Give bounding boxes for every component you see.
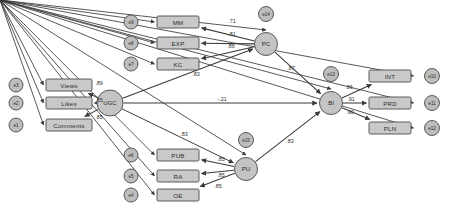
coefficient-UGC-views: .89 (95, 80, 103, 86)
coefficient-UGC-comments: .85 (95, 114, 103, 120)
observed-variable-OE: OE (157, 189, 199, 201)
observed-variable-INT: INT (369, 70, 411, 82)
observed-variable-likes: Likes (46, 97, 92, 109)
error-term-e6: e6 (124, 148, 138, 162)
latent-variable-UGC: UGC (97, 90, 123, 116)
coefficient-UGC-PU: .83 (180, 131, 188, 137)
error-term-e8: e8 (124, 36, 138, 50)
latent-label-PU: PU (242, 166, 250, 172)
error-term-e7: e7 (124, 57, 138, 71)
coefficient-PU-RA: .85 (217, 172, 225, 178)
observed-variable-comments: Comments (46, 119, 92, 131)
coefficient-PC-EXP: .81 (228, 31, 236, 37)
observed-label-comments: Comments (53, 122, 85, 129)
coefficient-BI-PLN: .90 (346, 109, 354, 115)
path-UGC-to-PC (123, 49, 253, 98)
observed-variable-views: Views (46, 79, 92, 91)
error-term-e12: e12 (425, 121, 440, 136)
observed-variable-RA: RA (157, 170, 199, 182)
observed-label-KC: KC (174, 61, 183, 68)
error-label-e5: e5 (128, 174, 134, 179)
latent-variable-PC: PC (255, 33, 278, 56)
observed-variable-KC: KC (157, 58, 199, 70)
observed-label-RA: RA (174, 173, 184, 180)
error-term-e15: e15 (239, 133, 254, 148)
error-term-e10: e10 (425, 69, 440, 84)
error-label-e6: e6 (128, 153, 134, 158)
error-label-e11: e11 (428, 101, 436, 106)
error-term-e2: e2 (9, 96, 23, 110)
sem-diagram-canvas: ViewsLikesCommentsMMEXPKCPUBRAOEINTPRDPL… (0, 0, 451, 211)
error-term-e1: e1 (9, 118, 23, 132)
coefficient-PU-OE: .85 (214, 183, 222, 189)
observed-label-PLN: PLN (384, 125, 397, 132)
path-PU-to-BI (255, 112, 319, 162)
error-label-e4: e4 (128, 193, 134, 198)
observed-label-PUB: PUB (171, 152, 184, 159)
coefficient-PC-KC: .86 (227, 43, 235, 49)
error-label-e1: e1 (13, 123, 19, 128)
error-label-e15: e15 (242, 138, 250, 143)
coefficient-BI-INT: .86 (345, 84, 353, 90)
coefficient-PC-BI: .87 (287, 65, 295, 71)
coefficient-BI-PRD: .91 (347, 96, 355, 102)
error-label-e3: e3 (13, 83, 19, 88)
observed-variable-MM: MM (157, 16, 199, 28)
error-term-e4: e4 (124, 188, 138, 202)
observed-label-MM: MM (173, 19, 184, 26)
error-term-e3: e3 (9, 78, 23, 92)
error-term-e5: e5 (124, 169, 138, 183)
error-label-e7: e7 (128, 62, 134, 67)
error-label-e9: e9 (128, 20, 134, 25)
observed-label-views: Views (60, 82, 77, 89)
observed-label-OE: OE (173, 192, 182, 199)
latent-variable-BI: BI (320, 92, 343, 115)
error-label-e10: e10 (428, 74, 436, 79)
latent-label-PC: PC (262, 41, 271, 47)
coefficient-PU-BI: .83 (286, 138, 294, 144)
error-path-e10 (0, 0, 414, 76)
coefficient-PU-PUB: .85 (217, 156, 225, 162)
error-term-e9: e9 (124, 15, 138, 29)
latent-label-UGC: UGC (103, 100, 117, 106)
latent-label-BI: BI (328, 100, 334, 106)
error-label-e2: e2 (13, 101, 19, 106)
observed-variable-EXP: EXP (157, 37, 199, 49)
coefficient-PC-MM: .71 (228, 18, 236, 24)
sem-diagram-svg: ViewsLikesCommentsMMEXPKCPUBRAOEINTPRDPL… (0, 0, 451, 211)
coefficient-UGC-BI: -.21 (217, 96, 226, 102)
error-label-e13: e13 (327, 72, 335, 77)
observed-label-INT: INT (385, 73, 396, 80)
error-label-e8: e8 (128, 41, 134, 46)
observed-label-PRD: PRD (383, 100, 397, 107)
coefficient-UGC-likes: .85 (95, 97, 103, 103)
latent-variable-PU: PU (235, 158, 258, 181)
error-term-e13: e13 (324, 67, 339, 82)
observed-variable-PLN: PLN (369, 122, 411, 134)
error-label-e12: e12 (428, 126, 436, 131)
error-term-e14: e14 (259, 7, 274, 22)
observed-label-likes: Likes (61, 100, 76, 107)
observed-variable-PRD: PRD (369, 97, 411, 109)
observed-variable-PUB: PUB (157, 149, 199, 161)
error-label-e14: e14 (262, 12, 270, 17)
error-term-e11: e11 (425, 96, 440, 111)
observed-label-EXP: EXP (172, 40, 185, 47)
coefficient-UGC-PC: .83 (192, 71, 200, 77)
